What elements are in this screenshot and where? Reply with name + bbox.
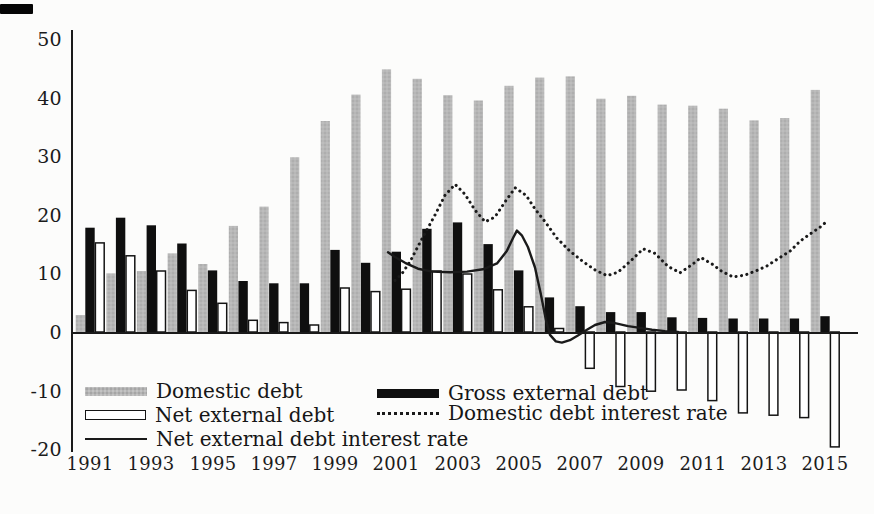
x-tick-label: 2005 xyxy=(487,453,551,475)
white-bar-swatch xyxy=(85,410,146,420)
x-tick-label: 1995 xyxy=(181,453,245,475)
x-tick-label: 1993 xyxy=(119,453,183,475)
y-tick-label: -20 xyxy=(16,438,62,460)
y-tick-label: 0 xyxy=(16,321,62,343)
legend-label: Domestic debt xyxy=(156,379,303,403)
x-tick-label: 2009 xyxy=(609,453,673,475)
legend-item-net-external-debt-interest-rate: Net external debt interest rate xyxy=(85,427,468,451)
x-tick-label: 1997 xyxy=(242,453,306,475)
legend-item-domestic-debt: Domestic debt xyxy=(85,379,303,403)
bars-gross-external-debt xyxy=(85,218,829,332)
dotted-line-swatch xyxy=(377,412,439,415)
y-tick-label: 20 xyxy=(16,204,62,226)
x-tick-label: 2001 xyxy=(364,453,428,475)
y-tick-label: 40 xyxy=(16,87,62,109)
x-tick-label: 1999 xyxy=(303,453,367,475)
x-tick-label: 2007 xyxy=(548,453,612,475)
y-tick-label: 50 xyxy=(16,28,62,50)
x-tick-label: 2011 xyxy=(671,453,735,475)
legend-label: Net external debt xyxy=(155,403,334,427)
x-tick-label: 2015 xyxy=(793,453,857,475)
legend-item-domestic-debt-interest-rate: Domestic debt interest rate xyxy=(377,401,728,425)
y-tick-label: -10 xyxy=(16,380,62,402)
legend-label: Domestic debt interest rate xyxy=(448,401,728,425)
x-tick-label: 2013 xyxy=(732,453,796,475)
legend-label: Net external debt interest rate xyxy=(156,427,468,451)
chart: 50403020100-10-20 1991199319951997199920… xyxy=(0,0,874,514)
legend-item-net-external-debt: Net external debt xyxy=(85,403,334,427)
gray-bar-swatch xyxy=(85,387,147,396)
solid-line-swatch xyxy=(85,438,147,440)
x-tick-label: 2003 xyxy=(426,453,490,475)
x-tick-label: 1991 xyxy=(58,453,122,475)
y-tick-label: 30 xyxy=(16,145,62,167)
y-tick-label: 10 xyxy=(16,262,62,284)
black-bar-swatch xyxy=(377,389,439,398)
